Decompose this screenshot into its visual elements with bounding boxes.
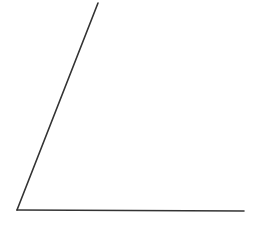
diagram-canvas <box>0 0 264 225</box>
angle-diagram <box>0 0 264 225</box>
slanted-ray-line <box>17 3 98 210</box>
horizontal-ray-line <box>17 210 244 211</box>
